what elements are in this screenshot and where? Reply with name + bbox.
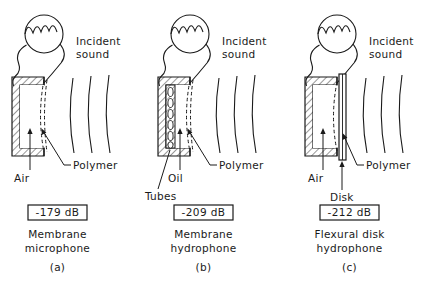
sensitivity-value-b: -209 dB (182, 206, 226, 218)
sensitivity-value-a: -179 dB (36, 206, 80, 218)
incident-sound-c-line1: Incident (369, 35, 414, 47)
caption-b-line2: hydrophone (171, 242, 237, 254)
callout-polymer-b-label: Polymer (219, 159, 264, 171)
callout-polymer-c-label: Polymer (366, 159, 411, 171)
caption-a-index: (a) (50, 261, 66, 273)
callout-tubes-b-label: Tubes (144, 190, 177, 202)
sensor-diagram-svg: Air Polymer Incident sound -179 dB Membr… (0, 0, 438, 283)
cavity-air-c (313, 85, 337, 148)
callout-oil-b-label: Oil (168, 172, 183, 184)
caption-b-line1: Membrane (174, 228, 233, 240)
callout-air-a-label: Air (14, 172, 30, 184)
caption-c-index: (c) (342, 261, 357, 273)
caption-c-line1: Flexural disk (314, 228, 385, 240)
incident-sound-c-line2: sound (369, 48, 402, 60)
figure-container: Air Polymer Incident sound -179 dB Membr… (0, 0, 438, 283)
flexural-disk-c (339, 74, 346, 160)
incident-sound-a-line1: Incident (76, 35, 121, 47)
tubes-b (166, 85, 175, 148)
caption-a-line2: microphone (25, 242, 90, 254)
incident-sound-b-line1: Incident (222, 35, 267, 47)
incident-sound-b-line2: sound (222, 48, 255, 60)
incident-sound-a-line2: sound (76, 48, 109, 60)
callout-air-c-label: Air (308, 172, 324, 184)
sensitivity-value-c: -212 dB (328, 206, 372, 218)
callout-polymer-a-label: Polymer (73, 159, 118, 171)
callout-disk-c-label: Disk (330, 191, 354, 203)
caption-a-line1: Membrane (28, 228, 87, 240)
caption-b-index: (b) (196, 261, 212, 273)
caption-c-line2: hydrophone (317, 242, 383, 254)
